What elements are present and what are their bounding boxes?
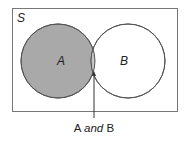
venn-diagram: S A B A and B [0, 0, 185, 141]
set-b-label: B [120, 54, 128, 68]
set-a-label: A [56, 54, 65, 68]
universe-label: S [17, 11, 25, 25]
intersection-annotation: A and B [74, 122, 115, 134]
